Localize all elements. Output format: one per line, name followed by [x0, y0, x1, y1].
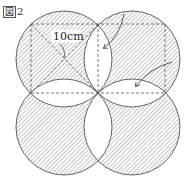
four-circles-diagram: 10cm	[0, 0, 186, 188]
dimension-label: 10cm	[53, 30, 84, 43]
